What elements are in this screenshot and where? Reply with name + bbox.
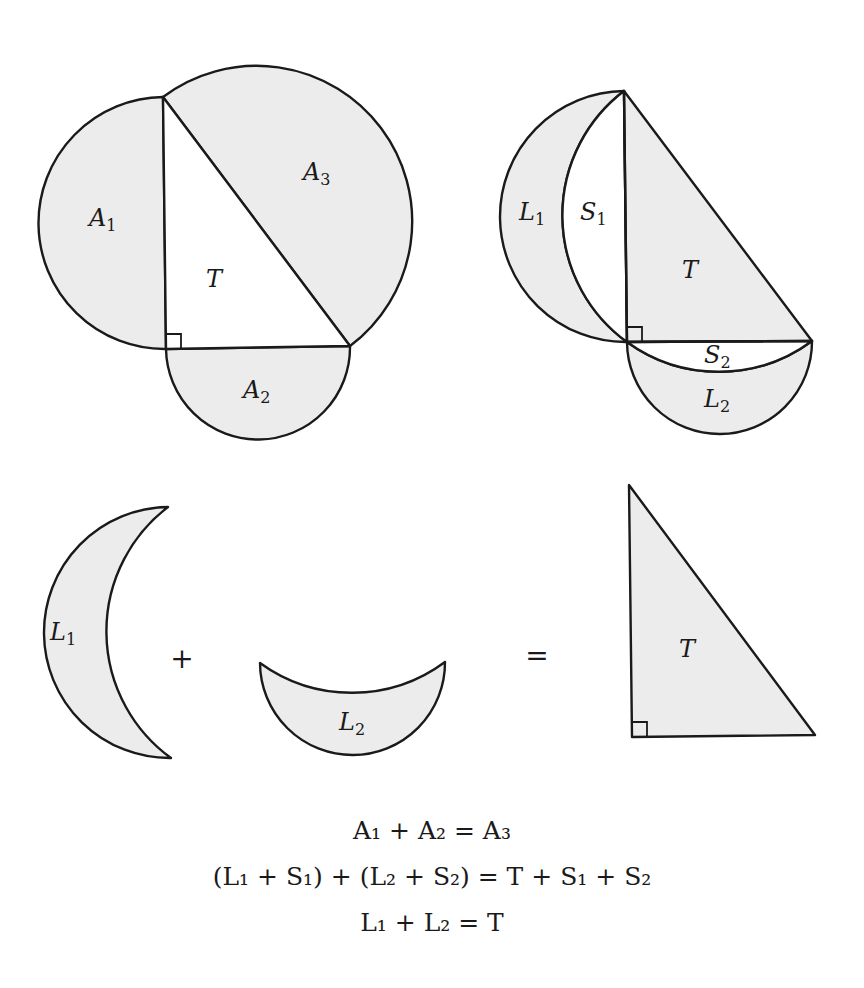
label-t: T (682, 256, 700, 284)
top-left-figure: A1 A3 T A2 (38, 66, 412, 440)
label-t: T (206, 265, 224, 293)
equation-1: A₁ + A₂ = A₃ (0, 808, 864, 854)
top-right-figure: L1 S1 T S2 L2 (500, 91, 812, 434)
equation-2: (L₁ + S₁) + (L₂ + S₂) = T + S₁ + S₂ (0, 854, 864, 900)
equations: A₁ + A₂ = A₃ (L₁ + S₁) + (L₂ + S₂) = T +… (0, 808, 864, 946)
label-t: T (679, 635, 697, 663)
plus-sign: + (170, 642, 193, 675)
equation-3: L₁ + L₂ = T (0, 900, 864, 946)
bottom-row: L1 + L2 = T (44, 485, 815, 758)
triangle-t (624, 91, 812, 342)
triangle-t (629, 485, 815, 737)
equals-sign: = (525, 639, 548, 672)
